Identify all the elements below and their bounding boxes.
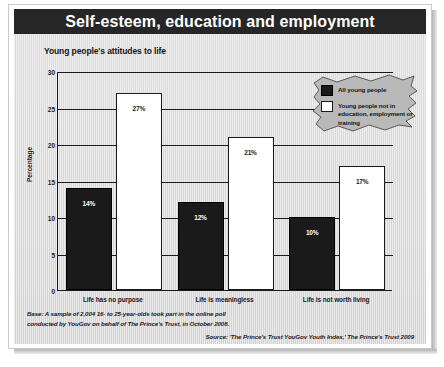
bar-value-label: 14% bbox=[67, 200, 111, 207]
x-category-label: Life is meaningless bbox=[169, 296, 281, 303]
legend-swatch bbox=[321, 85, 333, 96]
bar-value-label: 17% bbox=[340, 178, 384, 185]
source-note: Source: 'The Prince's Trust YouGov Youth… bbox=[205, 333, 414, 340]
title-bar: Self-esteem, education and employment bbox=[14, 9, 426, 34]
chart-panel: Young people's attitudes to life Percent… bbox=[14, 34, 426, 344]
bar: 21% bbox=[228, 137, 274, 290]
x-category-label: Life has no purpose bbox=[57, 296, 169, 303]
y-axis-tick-labels: 051015202530 bbox=[40, 72, 55, 291]
chart-subtitle: Young people's attitudes to life bbox=[44, 46, 166, 56]
gridline bbox=[58, 145, 393, 146]
y-axis-title: Percentage bbox=[26, 147, 33, 182]
bar-value-label: 27% bbox=[117, 105, 161, 112]
y-tick-label: 10 bbox=[41, 215, 55, 222]
bar: 12% bbox=[178, 202, 224, 290]
y-tick-label: 15 bbox=[41, 178, 55, 185]
legend-label: Young people not in education, employmen… bbox=[338, 101, 419, 127]
legend-item: All young people bbox=[321, 85, 419, 96]
frame-shadow-right bbox=[432, 10, 437, 353]
base-note: Base: A sample of 2,004 16- to 25-year-o… bbox=[27, 309, 229, 328]
x-category-label: Life is not worth living bbox=[280, 296, 392, 303]
legend-label: All young people bbox=[338, 85, 386, 94]
base-note-line-2: conducted by YouGov on behalf of The Pri… bbox=[27, 319, 229, 329]
legend-swatch bbox=[321, 101, 333, 112]
legend: All young peopleYoung people not in educ… bbox=[311, 73, 423, 135]
bar: 27% bbox=[116, 93, 162, 290]
bar-value-label: 12% bbox=[179, 214, 223, 221]
frame-shadow-bottom bbox=[14, 349, 437, 354]
y-tick-label: 25 bbox=[41, 105, 55, 112]
bar-value-label: 21% bbox=[229, 149, 273, 156]
chart-page: Self-esteem, education and employment Yo… bbox=[0, 0, 444, 367]
bar-value-label: 10% bbox=[290, 229, 334, 236]
y-tick-label: 20 bbox=[41, 142, 55, 149]
legend-item: Young people not in education, employmen… bbox=[321, 101, 419, 127]
bar: 10% bbox=[289, 217, 335, 290]
y-tick-label: 0 bbox=[41, 288, 55, 295]
y-tick-label: 5 bbox=[41, 251, 55, 258]
y-tick-label: 30 bbox=[41, 69, 55, 76]
base-note-line-1: Base: A sample of 2,004 16- to 25-year-o… bbox=[27, 309, 229, 319]
page-title: Self-esteem, education and employment bbox=[65, 13, 375, 31]
bar: 17% bbox=[339, 166, 385, 290]
bar: 14% bbox=[66, 188, 112, 290]
